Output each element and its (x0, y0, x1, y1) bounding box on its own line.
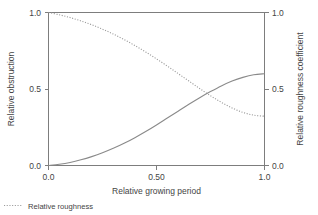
chart-legend: Relative roughness (4, 202, 93, 211)
y-axis-ticks-left (45, 13, 49, 166)
y-axis-ticks-right (265, 13, 269, 166)
y-axis-title-left: Relative obstruction (6, 51, 16, 126)
x-ticklabel-0: 0.0 (43, 172, 55, 182)
y-ticklabel-right-2: 1.0 (272, 8, 284, 18)
x-ticklabel-1: 0.50 (148, 172, 165, 182)
y-axis-ticklabels-right: 1.0 0.5 0.0 (272, 8, 284, 171)
y-ticklabel-right-1: 0.5 (272, 84, 284, 94)
plot-axes (49, 13, 265, 166)
plot-series (49, 13, 265, 166)
legend-label-0: Relative roughness (28, 202, 93, 211)
series-relative-obstruction (49, 74, 265, 166)
chart-canvas: 1.0 0.5 0.0 1.0 0.5 0.0 0.0 0.50 1.0 Rel… (0, 0, 318, 215)
y-ticklabel-right-0: 0.0 (272, 161, 284, 171)
y-axis-title-right: Relative roughness coefficient (295, 32, 305, 146)
x-axis-title: Relative growing period (112, 186, 201, 196)
y-axis-ticklabels-left: 1.0 0.5 0.0 (29, 8, 41, 171)
y-ticklabel-left-1: 0.5 (29, 84, 41, 94)
x-axis-ticks (49, 166, 265, 170)
x-axis-ticklabels: 0.0 0.50 1.0 (43, 172, 271, 182)
y-ticklabel-left-0: 0.0 (29, 161, 41, 171)
series-relative-roughness (49, 13, 265, 117)
chart-figure: 1.0 0.5 0.0 1.0 0.5 0.0 0.0 0.50 1.0 Rel… (0, 0, 318, 215)
x-ticklabel-2: 1.0 (259, 172, 271, 182)
y-ticklabel-left-2: 1.0 (29, 8, 41, 18)
